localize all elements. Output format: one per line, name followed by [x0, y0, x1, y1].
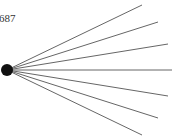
- edge-group: [7, 5, 172, 135]
- edge-line: [7, 5, 142, 70]
- edge-line: [7, 70, 158, 118]
- edge-line: [7, 44, 168, 70]
- edge-line: [7, 70, 142, 135]
- fan-diagram: [0, 0, 173, 139]
- edge-line: [7, 22, 158, 70]
- root-node: [1, 64, 13, 76]
- edge-line: [7, 70, 168, 96]
